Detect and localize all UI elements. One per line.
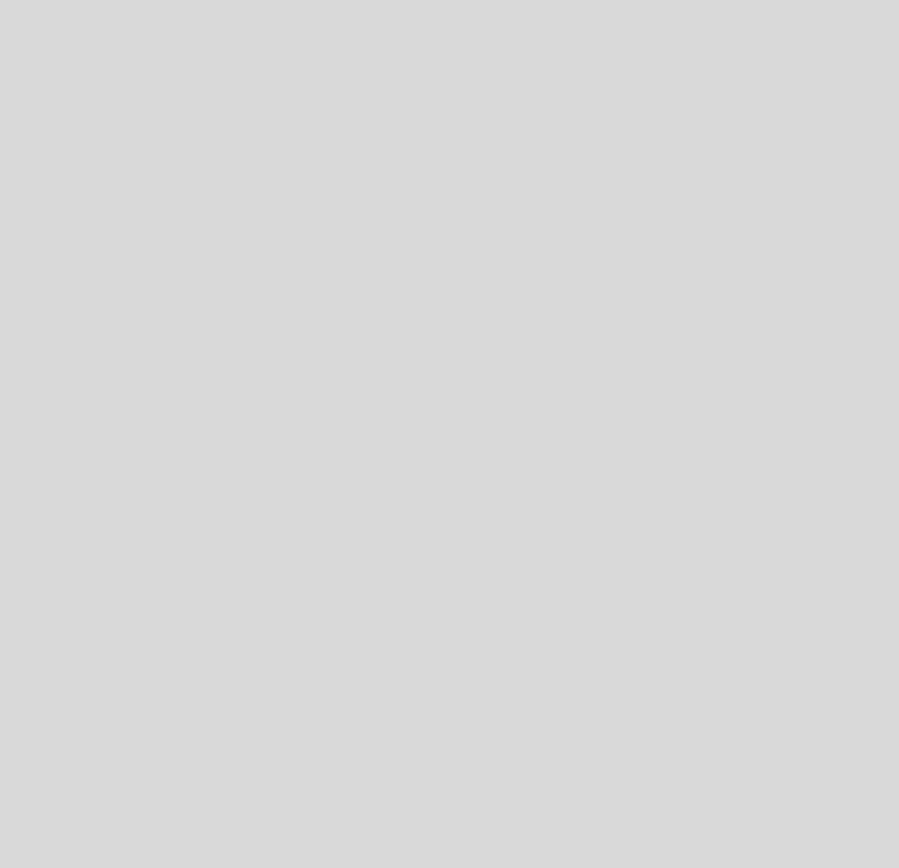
figure bbox=[0, 0, 899, 868]
chart-svg bbox=[0, 0, 899, 868]
